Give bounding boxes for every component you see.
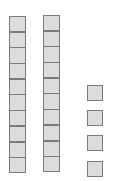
rod-cell xyxy=(9,47,26,63)
rod-cell xyxy=(9,157,26,173)
unit-cube xyxy=(87,85,103,101)
rod-cell xyxy=(9,63,26,79)
rod-cell xyxy=(9,16,26,32)
rod-cell xyxy=(43,46,60,62)
rod-cell xyxy=(9,126,26,142)
rod-cell xyxy=(9,79,26,95)
unit-cube xyxy=(87,110,103,126)
unit-cube xyxy=(87,135,103,151)
rod-cell xyxy=(9,32,26,48)
rod-cell xyxy=(9,110,26,126)
rod-cell xyxy=(43,62,60,78)
rod-cell xyxy=(9,142,26,158)
rod-cell xyxy=(43,156,60,172)
rod-cell xyxy=(43,141,60,157)
rod-cell xyxy=(43,78,60,94)
tens-rod xyxy=(43,15,60,172)
tens-rod xyxy=(9,16,26,173)
unit-cube xyxy=(87,161,103,177)
rod-cell xyxy=(43,109,60,125)
rod-cell xyxy=(43,15,60,31)
rod-cell xyxy=(43,31,60,47)
rod-cell xyxy=(43,93,60,109)
rod-cell xyxy=(9,94,26,110)
rod-cell xyxy=(43,125,60,141)
